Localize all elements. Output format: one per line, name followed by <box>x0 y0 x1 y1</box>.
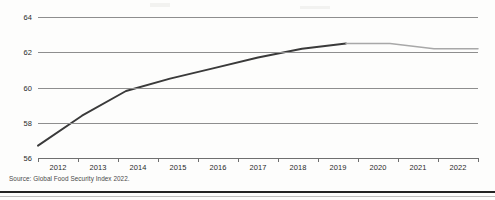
y-axis-tick-label: 56 <box>6 154 32 163</box>
x-axis-tick <box>38 158 39 162</box>
x-axis-tick-label: 2020 <box>369 163 386 172</box>
paper-speckle <box>150 3 170 7</box>
x-axis-tick-label: 2013 <box>89 163 106 172</box>
x-axis-tick <box>358 158 359 162</box>
x-axis-tick-label: 2014 <box>129 163 146 172</box>
bottom-rule-secondary <box>0 196 495 197</box>
y-axis-tick-label: 64 <box>6 13 32 22</box>
source-note: Source: Global Food Security Index 2022. <box>9 175 130 182</box>
x-axis-tick <box>78 158 79 162</box>
x-axis-tick <box>398 158 399 162</box>
y-axis-tick-label: 58 <box>6 118 32 127</box>
y-axis-tick-label: 62 <box>6 48 32 57</box>
gridline <box>38 17 478 18</box>
chart-figure: 5658606264 20122013201420152016201720182… <box>0 0 495 200</box>
x-axis-tick-label: 2019 <box>329 163 346 172</box>
x-axis-tick-label: 2021 <box>409 163 426 172</box>
x-axis-tick-label: 2016 <box>209 163 226 172</box>
x-axis-tick-label: 2012 <box>49 163 66 172</box>
y-axis-tick-label: 60 <box>6 83 32 92</box>
x-axis-tick-label: 2015 <box>169 163 186 172</box>
x-axis-tick-label: 2017 <box>249 163 266 172</box>
gridline <box>38 123 478 124</box>
x-axis-tick-label: 2018 <box>289 163 306 172</box>
x-axis-tick <box>238 158 239 162</box>
x-axis-tick <box>278 158 279 162</box>
x-axis-tick <box>478 158 479 162</box>
x-axis-tick <box>158 158 159 162</box>
line-series-historical <box>38 43 346 145</box>
x-axis-line <box>38 158 478 159</box>
line-series-recent <box>346 43 478 48</box>
gridline <box>38 88 478 89</box>
bottom-rule <box>0 191 495 193</box>
x-axis-tick <box>198 158 199 162</box>
x-axis-tick <box>118 158 119 162</box>
paper-speckle <box>300 6 330 9</box>
gridline <box>38 52 478 53</box>
y-axis-labels: 5658606264 <box>0 17 32 158</box>
x-axis-tick <box>438 158 439 162</box>
x-axis-tick <box>318 158 319 162</box>
x-axis-tick-label: 2022 <box>449 163 466 172</box>
